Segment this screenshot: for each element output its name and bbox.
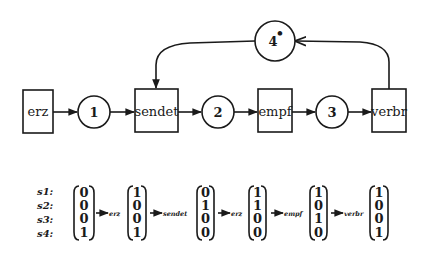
vector-value: 0	[201, 225, 210, 240]
step-arrow-4: verbr	[331, 210, 364, 218]
vector-value: 0	[132, 211, 141, 226]
vector-value: 1	[374, 225, 383, 240]
state-vector-3: 1 1 0 0	[249, 185, 266, 240]
petri-net-diagram: erz sendet empf verbr 1 2 3 4 • s1: s2: …	[0, 0, 425, 257]
place-3-label: 3	[327, 105, 336, 120]
place-1-label: 1	[89, 105, 98, 120]
state-vector-0: 0 0 0 1	[74, 185, 94, 240]
vector-value: 0	[374, 211, 383, 226]
step-arrow-0: erz	[96, 210, 121, 218]
step-transition-label: verbr	[344, 210, 364, 218]
vector-value: 1	[132, 225, 141, 240]
row-label-s3: s3:	[37, 214, 54, 225]
step-arrow-3: empf	[271, 210, 304, 218]
state-vector-2: 0 1 0 0	[197, 185, 214, 240]
step-arrow-2: erz	[218, 210, 243, 218]
row-label-s2: s2:	[37, 200, 54, 211]
transition-verbr: verbr	[370, 89, 408, 132]
transition-empf: empf	[258, 89, 293, 132]
place-4: 4 •	[255, 21, 295, 61]
step-transition-label: sendet	[163, 210, 187, 218]
vector-value: 0	[253, 225, 262, 240]
state-vector-1: 1 0 0 1	[128, 185, 146, 240]
row-label-s4: s4:	[37, 228, 54, 239]
vector-value: 0	[314, 225, 323, 240]
vector-value: 1	[314, 211, 323, 226]
arc-verbr-p4	[296, 41, 389, 89]
row-label-s1: s1:	[37, 186, 54, 197]
step-transition-label: erz	[109, 210, 121, 218]
vector-value: 0	[253, 211, 262, 226]
step-transition-label: empf	[284, 210, 304, 218]
place-2-label: 2	[213, 105, 222, 120]
token-dot-icon: •	[276, 26, 284, 41]
place-2: 2	[202, 96, 234, 128]
place-1: 1	[78, 96, 110, 128]
transition-erz: erz	[23, 90, 53, 133]
state-vector-4: 1 0 1 0	[310, 185, 327, 240]
step-arrow-1: sendet	[150, 210, 187, 218]
transition-verbr-label: verbr	[370, 104, 408, 119]
state-vector-5: 1 0 0 1	[370, 185, 388, 240]
transition-sendet-label: sendet	[135, 104, 180, 119]
vector-value: 0	[201, 211, 210, 226]
vector-value: 0	[79, 211, 88, 226]
arc-p4-sendet	[156, 41, 255, 88]
step-transition-label: erz	[231, 210, 243, 218]
state-row-labels: s1: s2: s3: s4:	[37, 186, 54, 239]
place-3: 3	[316, 96, 348, 128]
transition-sendet: sendet	[135, 89, 180, 132]
transition-erz-label: erz	[28, 104, 49, 119]
vector-value: 1	[79, 225, 88, 240]
transition-empf-label: empf	[258, 104, 292, 119]
